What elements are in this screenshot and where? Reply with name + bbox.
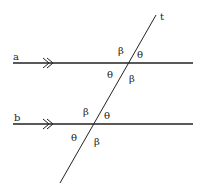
label-line-t: t (160, 12, 164, 22)
angle-a-upper-left: β (118, 46, 124, 56)
transversal-t (60, 15, 156, 183)
angle-b-upper-left: β (83, 107, 89, 117)
label-line-b: b (14, 113, 20, 123)
angle-b-lower-right: β (94, 137, 100, 147)
parallel-lines-diagram: a b t β θ θ β β θ θ β (0, 0, 203, 194)
angle-b-lower-left: θ (71, 133, 77, 143)
label-line-a: a (13, 52, 19, 62)
diagram-canvas (0, 0, 203, 194)
angle-b-upper-right: θ (104, 111, 110, 121)
angle-a-lower-right: β (129, 74, 135, 84)
angle-a-upper-right: θ (137, 50, 143, 60)
angle-a-lower-left: θ (107, 70, 113, 80)
